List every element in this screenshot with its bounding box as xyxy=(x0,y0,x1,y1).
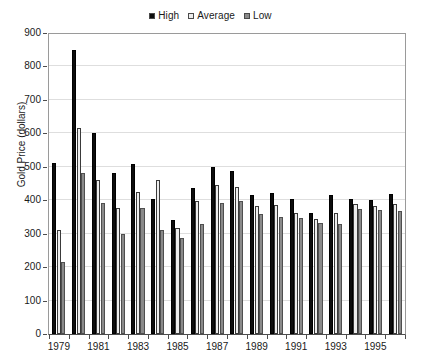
y-tick-label: 0 xyxy=(0,329,41,339)
legend-swatch-icon xyxy=(149,13,155,19)
bar-low-1985[interactable] xyxy=(180,238,184,334)
x-axis-labels: 197919811983198519871989199119931995 xyxy=(0,341,421,357)
bars-layer xyxy=(49,33,405,334)
bar-low-1992[interactable] xyxy=(318,223,322,334)
bar-average-1980[interactable] xyxy=(77,128,81,334)
legend-item-label: Average xyxy=(197,10,235,21)
bar-low-1982[interactable] xyxy=(121,234,125,334)
bar-high-1996[interactable] xyxy=(389,194,393,334)
x-tick-label-1987: 1987 xyxy=(195,341,239,353)
bar-average-1994[interactable] xyxy=(353,204,357,334)
x-tick-mark xyxy=(365,335,366,339)
bar-average-1989[interactable] xyxy=(255,206,259,334)
bar-high-1979[interactable] xyxy=(52,163,56,334)
legend-item-average[interactable]: Average xyxy=(188,10,235,21)
bar-high-1993[interactable] xyxy=(329,195,333,334)
y-tick-mark xyxy=(43,301,47,302)
bar-low-1981[interactable] xyxy=(101,203,105,334)
bar-average-1985[interactable] xyxy=(175,228,179,334)
gold-price-bar-chart: HighAverageLow 9008007006005004003002001… xyxy=(0,0,421,363)
bar-high-1987[interactable] xyxy=(211,167,215,334)
bar-high-1986[interactable] xyxy=(191,188,195,334)
x-tick-mark xyxy=(187,335,188,339)
y-tick-mark xyxy=(43,234,47,235)
bar-group-1979 xyxy=(49,33,69,334)
bar-group-1986 xyxy=(187,33,207,334)
bar-average-1992[interactable] xyxy=(314,219,318,334)
x-tick-mark xyxy=(148,335,149,339)
y-tick-label: 100 xyxy=(0,296,41,306)
bar-average-1993[interactable] xyxy=(334,213,338,334)
bar-high-1984[interactable] xyxy=(151,199,155,334)
bar-low-1989[interactable] xyxy=(259,214,263,334)
bar-low-1988[interactable] xyxy=(239,201,243,334)
bar-high-1994[interactable] xyxy=(349,199,353,334)
bar-low-1996[interactable] xyxy=(398,211,402,334)
bar-average-1986[interactable] xyxy=(195,201,199,334)
bar-high-1995[interactable] xyxy=(369,200,373,334)
bar-average-1987[interactable] xyxy=(215,185,219,334)
bar-low-1991[interactable] xyxy=(299,218,303,334)
bar-group-1994 xyxy=(346,33,366,334)
bar-high-1991[interactable] xyxy=(290,199,294,334)
x-tick-mark xyxy=(168,335,169,339)
bar-low-1979[interactable] xyxy=(61,262,65,334)
bar-low-1994[interactable] xyxy=(358,209,362,334)
bar-average-1988[interactable] xyxy=(235,187,239,334)
legend-swatch-icon xyxy=(244,13,250,19)
x-tick-mark xyxy=(326,335,327,339)
y-tick-mark xyxy=(43,33,47,34)
y-tick-mark xyxy=(43,167,47,168)
legend-item-label: Low xyxy=(253,10,272,21)
x-tick-label-1989: 1989 xyxy=(235,341,279,353)
bar-high-1990[interactable] xyxy=(270,193,274,334)
bar-average-1984[interactable] xyxy=(156,180,160,334)
bar-low-1990[interactable] xyxy=(279,217,283,334)
bar-group-1985 xyxy=(168,33,188,334)
bar-low-1995[interactable] xyxy=(378,210,382,334)
bar-group-1990 xyxy=(267,33,287,334)
y-tick-mark xyxy=(43,100,47,101)
bar-average-1983[interactable] xyxy=(136,192,140,334)
x-tick-label-1983: 1983 xyxy=(116,341,160,353)
bar-group-1989 xyxy=(247,33,267,334)
legend-item-high[interactable]: High xyxy=(149,10,179,21)
bar-high-1980[interactable] xyxy=(72,50,76,334)
bar-high-1988[interactable] xyxy=(230,171,234,334)
bar-high-1981[interactable] xyxy=(92,133,96,334)
bar-group-1996 xyxy=(385,33,405,334)
bar-low-1986[interactable] xyxy=(200,224,204,334)
bar-low-1987[interactable] xyxy=(220,203,224,334)
x-tick-mark xyxy=(306,335,307,339)
bar-average-1979[interactable] xyxy=(57,230,61,334)
bar-low-1993[interactable] xyxy=(338,224,342,334)
y-tick-mark xyxy=(43,267,47,268)
bar-average-1991[interactable] xyxy=(294,213,298,334)
bar-high-1992[interactable] xyxy=(309,213,313,334)
bar-group-1980 xyxy=(69,33,89,334)
x-tick-mark xyxy=(207,335,208,339)
bar-average-1982[interactable] xyxy=(116,208,120,334)
bar-average-1990[interactable] xyxy=(274,205,278,334)
x-tick-mark xyxy=(405,335,406,339)
bar-high-1982[interactable] xyxy=(112,173,116,334)
bar-group-1991 xyxy=(286,33,306,334)
bar-group-1992 xyxy=(306,33,326,334)
y-tick-mark xyxy=(43,200,47,201)
bar-average-1981[interactable] xyxy=(96,180,100,334)
bar-high-1983[interactable] xyxy=(131,164,135,334)
bar-average-1995[interactable] xyxy=(373,206,377,334)
bar-high-1985[interactable] xyxy=(171,220,175,334)
bar-group-1995 xyxy=(365,33,385,334)
x-tick-label-1993: 1993 xyxy=(314,341,358,353)
x-tick-mark xyxy=(286,335,287,339)
bar-low-1980[interactable] xyxy=(81,173,85,334)
bar-low-1984[interactable] xyxy=(160,230,164,334)
bar-low-1983[interactable] xyxy=(140,208,144,334)
bar-average-1996[interactable] xyxy=(393,204,397,334)
x-tick-mark xyxy=(128,335,129,339)
chart-legend: HighAverageLow xyxy=(0,10,421,21)
legend-item-low[interactable]: Low xyxy=(244,10,272,21)
bar-high-1989[interactable] xyxy=(250,195,254,334)
bar-group-1982 xyxy=(108,33,128,334)
